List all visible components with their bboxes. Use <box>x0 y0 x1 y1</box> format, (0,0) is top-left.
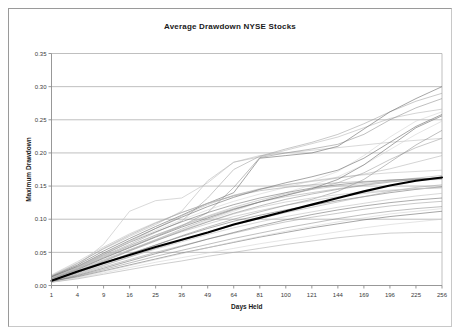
x-tick-label: 4 <box>76 292 80 298</box>
x-tick-label: 121 <box>307 292 318 298</box>
y-tick-label: 0.15 <box>35 183 47 189</box>
chart-window: Average Drawdown NYSE Stocks 0.000.050.1… <box>0 0 460 335</box>
stock-drawdown-line <box>52 209 443 283</box>
y-tick-label: 0.10 <box>35 216 47 222</box>
stock-drawdown-line <box>52 156 443 279</box>
y-tick-label: 0.20 <box>35 150 47 156</box>
x-tick-label: 100 <box>281 292 292 298</box>
x-tick-label: 169 <box>359 292 370 298</box>
x-tick-label: 16 <box>126 292 133 298</box>
x-tick-label: 25 <box>152 292 159 298</box>
x-tick-label: 196 <box>385 292 396 298</box>
chart-plot-area: 0.000.050.100.150.200.250.300.35 1491625… <box>0 0 460 335</box>
x-tick-label: 144 <box>333 292 344 298</box>
x-tick-label: 64 <box>230 292 237 298</box>
x-axis-title-text: Days Held <box>231 303 262 311</box>
x-tick-label: 36 <box>178 292 185 298</box>
x-tick-label: 1 <box>50 292 54 298</box>
stock-lines <box>52 87 443 283</box>
x-tick-label: 256 <box>437 292 448 298</box>
y-tick-label: 0.05 <box>35 250 47 256</box>
y-tick-label: 0.30 <box>35 84 47 90</box>
x-tick-label: 49 <box>204 292 211 298</box>
y-axis-title: Maximum Drawdown <box>25 137 32 202</box>
x-tick-label: 81 <box>256 292 263 298</box>
y-axis-tick-labels: 0.000.050.100.150.200.250.300.35 <box>35 51 52 289</box>
stock-drawdown-line <box>52 138 443 277</box>
stock-drawdown-line <box>52 201 443 281</box>
y-tick-label: 0.00 <box>35 283 47 289</box>
x-axis-title: Days Held <box>231 303 262 311</box>
x-tick-label: 225 <box>411 292 422 298</box>
y-tick-label: 0.25 <box>35 117 47 123</box>
x-tick-label: 9 <box>102 292 106 298</box>
y-tick-label: 0.35 <box>35 51 47 57</box>
x-axis-tick-labels: 149162536496481100121144169196225256 <box>50 286 448 298</box>
y-axis-title-text: Maximum Drawdown <box>25 137 32 202</box>
